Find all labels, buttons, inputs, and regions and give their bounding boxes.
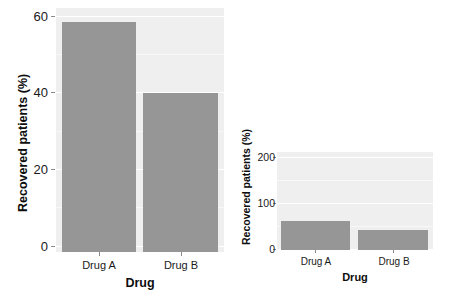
- gridline-y-150: [277, 180, 433, 181]
- ytick-mark-0: [51, 246, 55, 247]
- x-axis-title: Drug: [100, 276, 180, 290]
- plot-panel-right: [277, 152, 433, 250]
- ytick-mark-20: [51, 169, 55, 170]
- xtick-label-drug-b: Drug B: [141, 259, 221, 271]
- ytick-mark-40: [51, 92, 55, 93]
- ytick-mark-60: [51, 16, 55, 17]
- xtick-label-drug-b: Drug B: [359, 256, 429, 267]
- xtick-mark-drug-b: [393, 250, 394, 253]
- xtick-label-drug-a: Drug A: [59, 259, 139, 271]
- bar-drug-a: [281, 221, 350, 250]
- bar-drug-a: [62, 22, 136, 252]
- xtick-mark-drug-a: [315, 250, 316, 253]
- xtick-mark-drug-b: [181, 252, 182, 256]
- gridline-y-60: [56, 16, 224, 17]
- gridline-y-100: [277, 203, 433, 204]
- ytick-label-60: 60: [8, 10, 48, 23]
- x-axis-title: Drug: [320, 271, 390, 283]
- ytick-label-0: 0: [8, 240, 48, 253]
- bar-drug-b: [358, 230, 428, 250]
- y-axis-title: Recovered patients (%): [16, 74, 30, 212]
- ytick-label-0: 0: [243, 244, 275, 255]
- xtick-label-drug-a: Drug A: [281, 256, 351, 267]
- gridline-y-200: [277, 157, 433, 158]
- bar-drug-b: [143, 93, 218, 252]
- y-axis-title: Recovered patients (%): [240, 129, 252, 245]
- plot-panel-left: [56, 8, 224, 252]
- xtick-mark-drug-a: [99, 252, 100, 256]
